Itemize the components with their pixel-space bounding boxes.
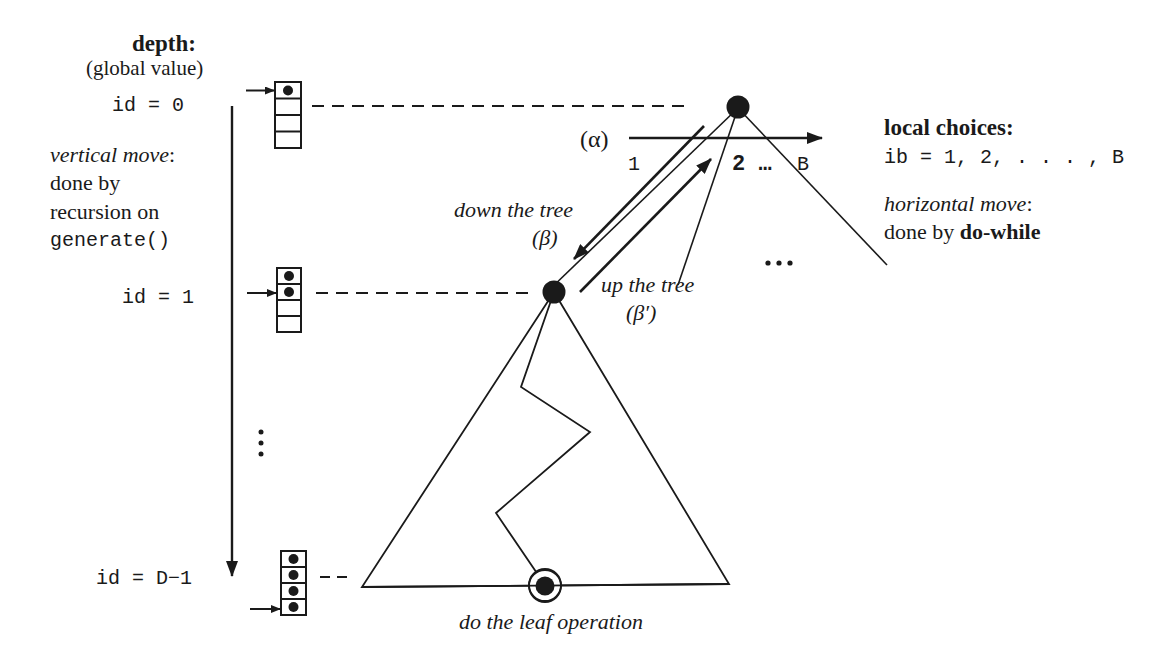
level-d-minus-1-label: id = D−1 — [96, 566, 192, 592]
branch-label-first: 1 — [628, 152, 640, 178]
done-by-text: done by — [884, 219, 960, 244]
vertical-move-colon: : — [169, 142, 175, 167]
more-branches-ellipsis-icon — [765, 260, 792, 265]
vertical-move-title-text: vertical move — [50, 142, 169, 167]
stack-dot-icon — [289, 586, 299, 596]
up-the-tree-label: up the tree — [601, 272, 694, 298]
generate-function-label: generate() — [50, 228, 170, 254]
beta-prime-label: (β′) — [626, 300, 656, 326]
stack-dot-icon — [283, 86, 293, 96]
subtree-node-icon — [543, 281, 566, 304]
down-the-tree-label: down the tree — [454, 197, 573, 223]
stack-dot-icon — [284, 287, 294, 297]
stack-level-0 — [246, 82, 301, 148]
subtree-triangle — [362, 292, 729, 587]
beta-label: (β) — [532, 225, 558, 251]
horizontal-move-description: done by do-while — [884, 219, 1040, 245]
branch-label-middle: 2 … — [732, 152, 772, 178]
do-while-keyword: do-while — [960, 219, 1041, 244]
horizontal-move-title: horizontal move: — [884, 191, 1033, 217]
root-node-icon — [727, 96, 750, 119]
stack-level-d-minus-1 — [250, 551, 306, 615]
ib-expression: ib = 1, 2, . . . , B — [884, 145, 1124, 171]
stack-dot-icon — [284, 271, 294, 281]
horizontal-move-title-text: horizontal move — [884, 191, 1026, 216]
leaf-node-icon — [362, 569, 729, 602]
level-1-label: id = 1 — [122, 285, 194, 311]
vertical-move-title: vertical move: — [50, 142, 175, 168]
vertical-move-line2: recursion on — [50, 199, 159, 225]
depth-subtitle: (global value) — [86, 55, 203, 81]
horizontal-move-colon: : — [1026, 191, 1032, 216]
depth-title: depth: — [132, 31, 196, 57]
stack-dot-icon — [289, 602, 299, 612]
recursion-path — [496, 292, 590, 585]
vertical-ellipsis-icon — [259, 430, 264, 457]
alpha-label: (α) — [580, 126, 609, 152]
leaf-operation-label: do the leaf operation — [459, 609, 643, 635]
local-choices-title: local choices: — [884, 115, 1014, 141]
vertical-move-line1: done by — [50, 170, 120, 196]
level-0-label: id = 0 — [112, 93, 184, 119]
branch-label-last: B — [797, 152, 809, 178]
stack-dot-icon — [289, 554, 299, 564]
stack-level-1 — [247, 268, 301, 332]
stack-dot-icon — [289, 570, 299, 580]
